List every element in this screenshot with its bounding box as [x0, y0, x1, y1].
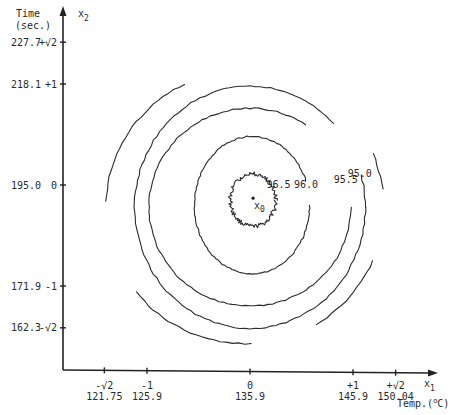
x-tick-coded-label: -√2 [95, 380, 113, 391]
y-tick-actual-label: 227.7 [11, 37, 41, 48]
y-tick-actual-label: 218.1 [11, 79, 41, 90]
x-tick-actual-label: 121.75 [86, 391, 122, 402]
y-axis-title-line1: Time [16, 8, 40, 19]
y-tick-coded-label: +√2 [39, 37, 57, 48]
x-tick-coded-label: -1 [141, 380, 153, 391]
contour-line-94-5 [373, 153, 383, 189]
x-tick-coded-label: +1 [347, 380, 359, 391]
stationary-point: x0 [251, 197, 265, 215]
y-axis-arrowhead [60, 6, 67, 16]
contour-line-94-5 [106, 85, 185, 202]
y-axis-symbol: x2 [78, 8, 89, 23]
x-tick-coded-label: +√2 [387, 380, 405, 391]
contour-line-95-0 [361, 175, 365, 207]
stationary-point-label: x0 [254, 200, 265, 214]
contour-line-96-0 [194, 136, 310, 274]
x-tick-actual-label: 145.9 [338, 391, 368, 402]
x-axis-line [63, 370, 430, 373]
contour-line-94-5 [137, 292, 252, 344]
x-tick-coded-label: 0 [247, 380, 253, 391]
y-tick-coded-label: -√2 [39, 322, 57, 333]
x-tick-actual-label: 125.9 [132, 391, 162, 402]
contour-line-94-5 [316, 261, 372, 325]
y-tick-actual-label: 162.3 [11, 322, 41, 333]
y-axis-title-line2: (sec.) [15, 20, 51, 31]
y-tick-actual-label: 195.0 [11, 180, 41, 191]
x-axis-arrowhead [428, 370, 438, 377]
y-tick-coded-label: 0 [51, 180, 57, 191]
y-tick-coded-label: +1 [45, 79, 57, 90]
contour-label: 95.0 [348, 168, 372, 179]
contour-label: 96.5 [266, 179, 290, 190]
x-tick-actual-label: 135.9 [235, 391, 265, 402]
contour-line-95-0 [134, 86, 366, 329]
contour-lines: 96.596.095.595.0 [106, 85, 383, 345]
x-axis-symbol: x1 [424, 378, 435, 393]
contour-line-95-5 [149, 108, 352, 306]
y-tick-actual-label: 171.9 [11, 281, 41, 292]
y-ticks: 227.7+√2218.1+1195.00171.9-1162.3-√2 [11, 37, 66, 334]
y-tick-coded-label: -1 [45, 281, 57, 292]
x-tick-actual-label: 150.04 [378, 391, 414, 402]
contour-label: 96.0 [294, 179, 318, 190]
response-surface-contour-plot: x2 x1 Time (sec.) Temp.(oC) 227.7+√2218.… [0, 0, 465, 415]
